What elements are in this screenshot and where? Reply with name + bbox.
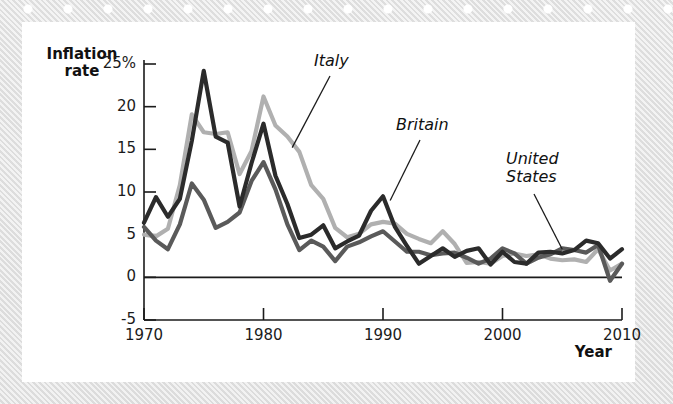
series-label-united-states-line2: States [506, 168, 559, 186]
y-tick-label: 15 [90, 139, 136, 157]
x-tick-label: 2010 [590, 326, 654, 344]
y-tick-label: 20 [90, 97, 136, 115]
x-tick-label: 1990 [351, 326, 415, 344]
y-tick-label: 0 [90, 267, 136, 285]
x-tick-label: 2000 [471, 326, 535, 344]
x-tick-label: 1980 [232, 326, 296, 344]
series-label-united-states: United States [506, 150, 559, 186]
decorative-perforation-strip [0, 2, 673, 16]
series-label-italy: Italy [314, 52, 349, 70]
x-tick-label: 1970 [112, 326, 176, 344]
series-label-united-states-line1: United [506, 150, 559, 168]
chart-panel: Inflation rate Year Italy [22, 22, 635, 382]
leader-line-italy [292, 76, 330, 148]
axes-group [144, 60, 622, 320]
leader-line-united-states [534, 194, 562, 249]
series-label-britain: Britain [396, 116, 449, 134]
y-tick-marks [144, 64, 156, 320]
leader-line-britain [390, 140, 420, 201]
figure-frame: Inflation rate Year Italy [0, 0, 673, 404]
x-tick-marks [144, 308, 622, 320]
y-tick-label: 25% [84, 54, 136, 72]
y-tick-label: 10 [90, 182, 136, 200]
y-tick-label: 5 [90, 225, 136, 243]
